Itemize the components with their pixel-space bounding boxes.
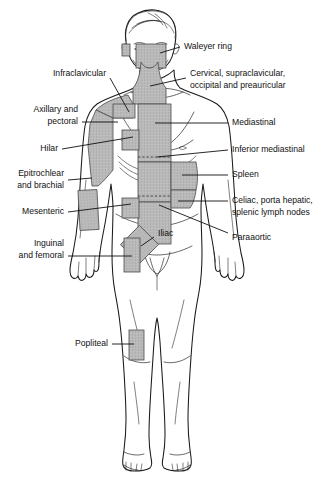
region-axillary-pectoral xyxy=(88,110,113,186)
label-hilar: Hilar xyxy=(40,143,58,153)
label-inguinal-line2: and femoral xyxy=(19,250,64,260)
label-paraaortic: Paraaortic xyxy=(232,232,272,242)
region-hilar xyxy=(122,130,139,150)
label-axillary-line1: Axillary and xyxy=(34,104,79,114)
label-cervical-line2: occipital and preauricular xyxy=(190,80,286,90)
region-mediastinal xyxy=(138,104,171,162)
region-inguinal-femoral xyxy=(124,238,140,272)
lymph-node-diagram: Waleyer ring Cervical, supraclavicular, … xyxy=(0,0,332,492)
region-infraclavicular xyxy=(113,104,135,118)
label-inferior-mediastinal: Inferior mediastinal xyxy=(232,144,305,154)
label-axillary-line2: pectoral xyxy=(47,116,78,126)
label-celiac-line2: splenic lymph nodes xyxy=(232,207,310,217)
region-mesenteric xyxy=(122,198,139,218)
region-popliteal xyxy=(129,330,144,360)
label-mediastinal: Mediastinal xyxy=(232,117,276,127)
label-epitrochlear-line2: and brachial xyxy=(17,180,64,190)
region-spleen xyxy=(171,162,198,190)
label-celiac-line1: Celiac, porta hepatic, xyxy=(232,195,313,205)
label-cervical-line1: Cervical, supraclavicular, xyxy=(190,68,285,78)
label-popliteal: Popliteal xyxy=(75,338,108,348)
region-preauricular xyxy=(122,44,130,56)
label-mesenteric: Mesenteric xyxy=(22,206,65,216)
label-infraclavicular: Infraclavicular xyxy=(53,68,106,78)
label-iliac: Iliac xyxy=(158,228,174,238)
label-inguinal-line1: Inguinal xyxy=(34,238,64,248)
label-waldeyer-ring: Waleyer ring xyxy=(184,41,232,51)
label-spleen: Spleen xyxy=(232,169,259,179)
label-epitrochlear-line1: Epitrochlear xyxy=(18,168,64,178)
